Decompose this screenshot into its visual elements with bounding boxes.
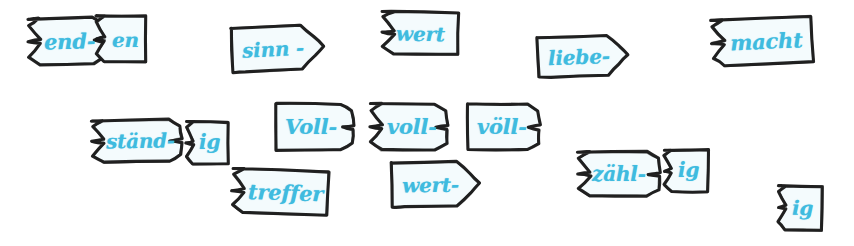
word-card-macht[interactable]: macht [711, 16, 813, 66]
card-outline-voell [460, 96, 548, 158]
card-outline-staend [84, 111, 191, 171]
puzzle-canvas: end-ensinn -wertliebe-machtständ-igVoll-… [0, 0, 854, 246]
card-outline-Voll [268, 96, 362, 158]
word-card-liebe[interactable]: liebe- [537, 34, 628, 77]
card-outline-voll [362, 96, 456, 158]
card-outline-ig-mid [656, 142, 716, 200]
word-card-Voll[interactable]: Voll- [276, 104, 354, 150]
card-outline-sinn [223, 15, 334, 81]
word-card-ig-mid[interactable]: ig [664, 150, 708, 192]
card-outline-treffer [223, 160, 337, 224]
word-card-ig-right[interactable]: ig [778, 186, 823, 231]
word-card-zaehl[interactable]: zähl- [578, 152, 660, 196]
card-outline-zaehl [570, 144, 668, 204]
card-outline-wert-top [374, 3, 467, 63]
word-card-treffer[interactable]: treffer [231, 168, 328, 215]
card-outline-wert-bottom [383, 153, 488, 215]
word-card-en[interactable]: en [96, 16, 146, 62]
word-card-sinn[interactable]: sinn - [231, 24, 325, 73]
word-card-voll[interactable]: voll- [370, 104, 448, 150]
card-outline-en [88, 8, 155, 71]
word-card-staend[interactable]: ständ- [92, 119, 183, 163]
word-card-wert-bottom[interactable]: wert- [392, 161, 481, 207]
card-outline-liebe [529, 26, 637, 86]
word-card-wert-top[interactable]: wert [382, 11, 459, 54]
card-outline-macht [703, 7, 822, 74]
word-card-ig-left[interactable]: ig [186, 122, 228, 164]
card-outline-ig-right [769, 177, 830, 238]
word-card-voell[interactable]: völl- [468, 104, 540, 150]
